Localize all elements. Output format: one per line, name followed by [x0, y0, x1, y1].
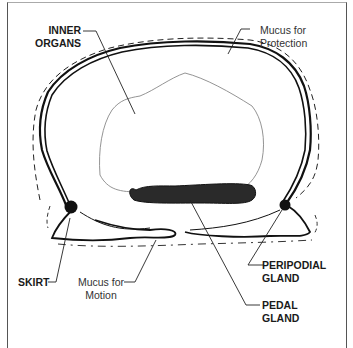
peripodial-gland-left-dot [65, 201, 78, 214]
label-mucus-motion: Mucus for Motion [75, 276, 127, 301]
body-outline-outer [40, 41, 311, 205]
leader-pedal-gland [190, 200, 260, 305]
foot-skirt-outline [52, 206, 310, 240]
leader-skirt [48, 218, 70, 282]
label-mucus-protection-line1: Mucus for [260, 24, 307, 37]
label-peripodial-gland-line1: PERIPODIAL [262, 259, 326, 272]
label-inner-organs-line1: INNER [48, 24, 81, 37]
label-pedal-gland-line1: PEDAL [262, 299, 299, 312]
label-mucus-protection-line2: Protection [260, 37, 307, 50]
pedal-gland-shape [130, 184, 256, 204]
mucus-side-dashes [47, 206, 317, 234]
label-inner-organs: INNER ORGANS [48, 24, 81, 49]
label-skirt-line1: SKIRT [18, 276, 50, 289]
label-inner-organs-line2: ORGANS [35, 37, 81, 50]
label-pedal-gland-line2: GLAND [262, 312, 299, 325]
body-outline-inner [45, 45, 306, 205]
label-mucus-motion-line2: Motion [75, 289, 127, 302]
label-peripodial-gland-line2: GLAND [262, 272, 326, 285]
label-mucus-motion-line1: Mucus for [75, 276, 127, 289]
label-peripodial-gland: PERIPODIAL GLAND [262, 259, 326, 284]
leader-inner-organs [83, 31, 135, 114]
label-skirt: SKIRT [18, 276, 50, 289]
label-mucus-protection: Mucus for Protection [260, 24, 307, 49]
peripodial-gland-right-dot [280, 200, 291, 211]
mucus-outer-dashed-outline [33, 38, 319, 200]
foot-inner-line [80, 210, 280, 230]
label-pedal-gland: PEDAL GLAND [262, 299, 299, 324]
